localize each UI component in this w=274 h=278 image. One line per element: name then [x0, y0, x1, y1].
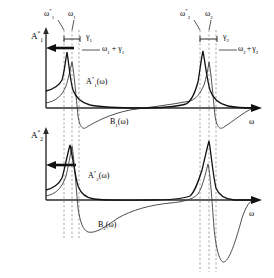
y-label-2-sub: 2 [40, 136, 43, 142]
panel-2-resonance-guides [64, 126, 216, 272]
A1-label-star: * [92, 76, 94, 81]
label-omega-1-plus-gamma-1: ω1+γ1 [102, 45, 124, 53]
gamma-1-bracket [64, 36, 80, 42]
panel-1-x-axis-label: ω [249, 118, 254, 126]
gamma-2-sub: 2 [227, 38, 229, 43]
y-label-1-sub: 1 [40, 37, 43, 43]
label-gamma-2: γ2 [223, 33, 229, 41]
curve-B1 [46, 62, 253, 128]
A2-label-star: * [94, 170, 96, 175]
opg1-plus: + [110, 44, 119, 53]
y-label-1-star: * [38, 30, 41, 36]
label-omega-2-plus-gamma-2: ω2+γ2 [238, 45, 258, 53]
omega-2-sub: 2 [210, 15, 212, 20]
label-omega-2: ω2 [205, 10, 213, 18]
label-gamma-1: γ1 [86, 33, 92, 41]
label-omega-2-star: ω*2 [180, 10, 190, 18]
panel-2-y-axis-arrowhead [43, 127, 49, 134]
opg2-gamma-sub: 2 [256, 50, 258, 55]
panel-2-y-axis-label: A*2 [31, 131, 43, 140]
omega-1-sub: 1 [73, 15, 75, 20]
omega-2-star-sub: 2 [188, 15, 190, 20]
A2-label-arg: (ω) [99, 171, 110, 180]
y-label-2-star: * [38, 129, 41, 135]
omega-2-star-sup: * [185, 8, 187, 13]
curve-label-B1: B1(ω) [110, 118, 128, 126]
opg1-gamma-sub: 1 [122, 50, 124, 55]
curve-A1-star [46, 51, 253, 108]
label-omega-1: ω1 [68, 10, 76, 18]
B1-label-arg: (ω) [118, 117, 129, 126]
panel-1-leader-lines [58, 20, 237, 50]
curve-A2-star [46, 141, 253, 200]
panel-1-shift-arrow [46, 44, 74, 52]
gamma-2-bracket [200, 36, 217, 42]
curve-B2 [46, 146, 253, 262]
curve-label-B2: B2(ω) [98, 221, 116, 229]
curve-label-A2-star: A*2(ω) [88, 172, 109, 180]
leader-omega-2-star [194, 20, 200, 30]
label-omega-1-star: ω*1 [44, 10, 54, 18]
leader-omega-1-star [58, 20, 64, 30]
omega-1-star-sup: * [49, 8, 51, 13]
leader-omega-1 [72, 20, 74, 30]
gamma-1-sub: 1 [90, 38, 92, 43]
leader-omega-2 [209, 20, 211, 30]
panel-2-axes [43, 127, 262, 204]
panel-1-y-axis-label: A*1 [31, 32, 43, 41]
panel-2-shift-arrow [46, 161, 76, 169]
panel-2-x-axis-label: ω [249, 210, 254, 218]
B2-label-arg: (ω) [106, 220, 117, 229]
curve-label-A1-star: A*1(ω) [86, 78, 107, 86]
omega-1-star-sub: 1 [52, 15, 54, 20]
panel-1-y-axis-arrowhead [43, 27, 49, 34]
figure-canvas: A*1 A*2 ω*1 ω1 γ1 ω1+γ1 ω*2 ω2 γ2 ω2+γ2 … [0, 0, 274, 278]
A1-label-arg: (ω) [97, 77, 108, 86]
